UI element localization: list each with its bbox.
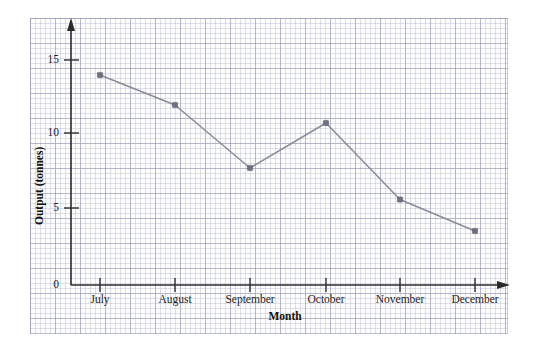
x-tick-label-august: August: [135, 294, 215, 306]
data-series-line: [100, 75, 475, 231]
y-tick-label-10: 10: [33, 127, 59, 139]
y-axis-arrow-icon: [67, 18, 75, 31]
x-tick-label-july: July: [60, 294, 140, 306]
x-tick-label-december: December: [433, 294, 517, 306]
x-tick-label-october: October: [286, 294, 366, 306]
data-point-november: [397, 197, 402, 202]
data-point-september: [247, 165, 252, 170]
x-axis: [71, 281, 510, 289]
x-axis-arrow-icon: [497, 281, 510, 289]
data-point-december: [472, 228, 477, 233]
x-axis-title: Month: [245, 310, 325, 322]
y-axis: [67, 18, 75, 285]
data-point-july: [97, 72, 102, 77]
y-axis-title: Output (tonnes): [33, 147, 45, 225]
data-point-august: [172, 102, 177, 107]
x-tick-label-september: September: [206, 294, 294, 306]
y-tick-label-0: 0: [33, 279, 59, 291]
y-tick-label-15: 15: [33, 54, 59, 66]
x-tick-label-november: November: [358, 294, 442, 306]
chart-page: 15 10 5 0 July August September October …: [0, 0, 534, 354]
data-point-october: [323, 120, 328, 125]
